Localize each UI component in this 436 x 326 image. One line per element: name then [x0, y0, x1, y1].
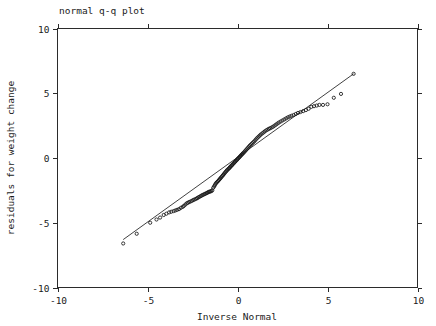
x-tick-label: 0 [236, 295, 242, 306]
y-tick-label: 0 [44, 153, 50, 164]
y-tick-label: 5 [44, 88, 50, 99]
y-tick-label: 10 [38, 24, 50, 35]
chart-page: normal q-q plot -10-50510 -10-50510 Inve… [0, 0, 436, 326]
chart-title: normal q-q plot [59, 5, 145, 16]
y-axis-title: residuals for weight change [5, 81, 16, 236]
y-tick-label: -10 [32, 283, 49, 294]
x-tick-label: 5 [326, 295, 332, 306]
qq-plot-figure: normal q-q plot -10-50510 -10-50510 Inve… [0, 0, 436, 326]
y-tick-label: -5 [38, 218, 49, 229]
x-tick-label: -10 [50, 295, 67, 306]
figure-background [0, 0, 436, 326]
x-axis-title: Inverse Normal [197, 311, 277, 322]
x-tick-label: -5 [143, 295, 154, 306]
x-tick-label: 10 [413, 295, 425, 306]
